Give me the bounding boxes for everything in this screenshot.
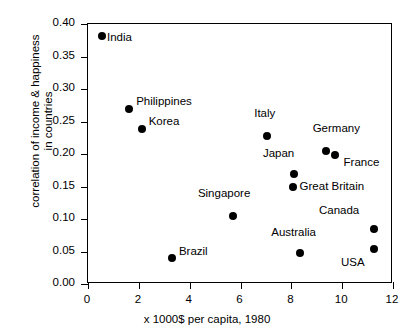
x-axis-tick — [190, 282, 191, 289]
x-axis-tick-label: 0 — [72, 294, 102, 306]
data-point — [370, 225, 378, 233]
data-point-label: Korea — [149, 116, 180, 128]
x-axis-tick-label: 2 — [123, 294, 153, 306]
data-point-label: India — [107, 32, 132, 44]
data-point — [370, 245, 378, 253]
data-point-label: Canada — [319, 205, 359, 217]
y-axis-tick-label: 0.30 — [35, 82, 75, 94]
y-axis-tick — [81, 89, 88, 90]
x-axis-tick-label: 12 — [377, 294, 407, 306]
x-axis-tick — [393, 282, 394, 289]
y-axis-tick-label: 0.05 — [35, 245, 75, 257]
data-point-label: Singapore — [198, 188, 250, 200]
x-axis-tick-label: 6 — [225, 294, 255, 306]
data-point-label: Great Britain — [300, 181, 365, 193]
y-axis-tick — [81, 24, 88, 25]
y-axis-tick — [81, 57, 88, 58]
y-axis-tick — [81, 219, 88, 220]
y-axis-tick-label: 0.15 — [35, 180, 75, 192]
data-point — [229, 212, 237, 220]
data-point — [263, 132, 271, 140]
x-axis-tick — [291, 282, 292, 289]
data-point — [290, 170, 298, 178]
data-point-label: Australia — [271, 227, 316, 239]
data-point — [322, 147, 330, 155]
data-point-label: Italy — [254, 108, 275, 120]
data-point-label: Japan — [263, 148, 294, 160]
x-axis-tick-label: 8 — [275, 294, 305, 306]
data-point-label: France — [344, 157, 380, 169]
y-axis-tick — [81, 252, 88, 253]
data-point — [125, 105, 133, 113]
data-point-label: Philippines — [136, 96, 192, 108]
y-axis-tick-label: 0.25 — [35, 115, 75, 127]
data-point — [138, 125, 146, 133]
data-point — [168, 254, 176, 262]
x-axis-tick — [342, 282, 343, 289]
data-point-label: USA — [341, 257, 365, 269]
data-point-label: Germany — [313, 123, 360, 135]
data-point-label: Brazil — [179, 246, 208, 258]
y-axis-tick — [81, 122, 88, 123]
x-axis-tick — [88, 282, 89, 289]
scatter-chart-figure: x 1000$ per capita, 1980 correlation of … — [0, 0, 414, 335]
y-axis-tick — [81, 154, 88, 155]
x-axis-tick-label: 10 — [326, 294, 356, 306]
x-axis-tick — [241, 282, 242, 289]
y-axis-tick-label: 0.00 — [35, 277, 75, 289]
y-axis-tick-label: 0.10 — [35, 212, 75, 224]
data-point — [331, 151, 339, 159]
x-axis-title: x 1000$ per capita, 1980 — [0, 313, 414, 325]
data-point — [98, 32, 106, 40]
y-axis-tick-label: 0.20 — [35, 147, 75, 159]
y-axis-tick — [81, 284, 88, 285]
y-axis-tick-label: 0.40 — [35, 17, 75, 29]
plot-area — [87, 23, 392, 283]
y-axis-tick — [81, 187, 88, 188]
data-point — [296, 249, 304, 257]
data-point — [289, 183, 297, 191]
y-axis-tick-label: 0.35 — [35, 50, 75, 62]
x-axis-tick — [139, 282, 140, 289]
x-axis-tick-label: 4 — [174, 294, 204, 306]
